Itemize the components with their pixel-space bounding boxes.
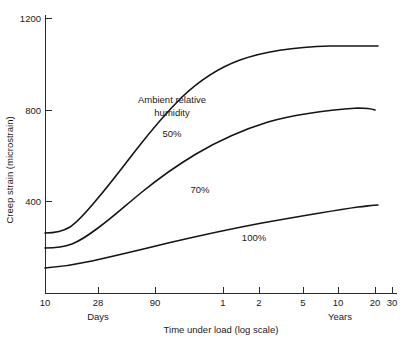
series-label-50-percent: 50%	[162, 128, 182, 139]
curve-100-percent	[45, 205, 378, 268]
series-label-100-percent: 100%	[242, 232, 267, 243]
x-tick-label-2-years: 2	[256, 297, 261, 308]
x-tick-label-1-year: 1	[220, 297, 225, 308]
series-label-70-percent: 70%	[190, 184, 210, 195]
annotation-title-line1: Ambient relative	[138, 94, 206, 105]
x-tick-label-20-years: 20	[370, 297, 381, 308]
x-tick-label-30-years: 30	[387, 297, 398, 308]
x-axis-title: Time under load (log scale)	[164, 324, 279, 335]
x-tick-marks	[46, 287, 393, 294]
annotation-title-line2: humidity	[154, 107, 190, 118]
x-tick-label-5-years: 5	[300, 297, 305, 308]
x-group-label-days: Days	[87, 311, 109, 322]
curve-70-percent	[45, 108, 375, 248]
y-tick-label-800: 800	[25, 105, 41, 116]
x-group-label-years: Years	[328, 311, 352, 322]
x-tick-label-28-days: 28	[93, 297, 104, 308]
x-tick-label-90-days: 90	[150, 297, 161, 308]
y-tick-marks	[46, 19, 53, 202]
y-tick-label-1200: 1200	[20, 13, 41, 24]
x-tick-label-10-years: 10	[333, 297, 344, 308]
curve-50-percent	[45, 46, 378, 233]
y-tick-label-400: 400	[25, 196, 41, 207]
chart-figure: 1200 800 400 Creep strain (microstrain) …	[0, 0, 405, 341]
y-axis-title: Creep strain (microstrain)	[4, 116, 15, 223]
creep-strain-plot: 1200 800 400 Creep strain (microstrain) …	[0, 0, 405, 341]
x-tick-label-10-days: 10	[40, 297, 51, 308]
